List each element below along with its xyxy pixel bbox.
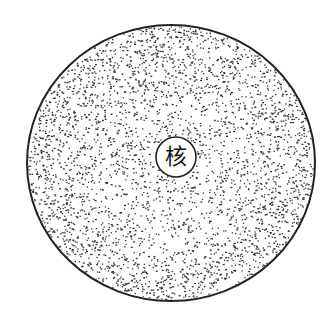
nucleus-label: 核	[164, 146, 188, 168]
